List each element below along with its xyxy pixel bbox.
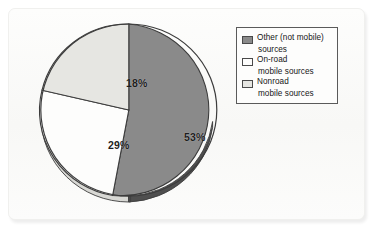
legend-label-other-line2: sources (258, 45, 333, 55)
pie-chart: 53% 18% 29% (36, 18, 226, 210)
legend-label-nonroad-line2: mobile sources (258, 89, 333, 99)
pie-slice-label-other: 53% (184, 131, 206, 143)
legend-label-other: Other (not mobile) (257, 33, 324, 43)
legend-swatch-other-icon (242, 36, 253, 44)
pie-chart-svg (36, 18, 226, 210)
chart-legend: Other (not mobile) sources On-road mobil… (236, 27, 338, 104)
pie-depth-seam (129, 196, 131, 202)
legend-label-onroad-line2: mobile sources (258, 67, 333, 77)
legend-item-nonroad[interactable]: Nonroad (242, 77, 333, 88)
legend-swatch-nonroad-icon (242, 80, 253, 88)
chart-screenshot: 53% 18% 29% Other (not mobile) sources O… (0, 0, 377, 234)
legend-item-onroad[interactable]: On-road (242, 55, 333, 66)
legend-item-other[interactable]: Other (not mobile) (242, 33, 333, 44)
pie-slice-label-onroad: 29% (108, 139, 130, 151)
legend-swatch-onroad-icon (242, 58, 253, 66)
pie-slice-label-nonroad: 18% (126, 77, 148, 89)
legend-label-nonroad: Nonroad (257, 77, 289, 87)
legend-label-onroad: On-road (257, 55, 287, 65)
